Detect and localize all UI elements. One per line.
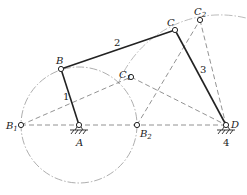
label-c: C	[167, 17, 175, 28]
label-link-2: 2	[114, 37, 120, 48]
label-d: D	[230, 119, 239, 130]
label-link-1: 1	[63, 91, 69, 102]
label-link-4: 4	[223, 137, 229, 148]
label-b2: B2	[139, 128, 152, 141]
link-2	[61, 30, 175, 69]
diagram-svg: A B B1 B2 C C1 C2 D 1 2 3 4	[0, 0, 247, 195]
label-link-3: 3	[200, 64, 206, 75]
joint-b	[58, 66, 63, 71]
label-c1: C1	[119, 69, 131, 82]
label-b1: B1	[5, 120, 18, 133]
rocker-arc	[118, 15, 246, 84]
link-3	[175, 30, 226, 125]
joint-d	[223, 122, 228, 127]
joint-b2	[134, 122, 139, 127]
linkage-diagram: A B B1 B2 C C1 C2 D 1 2 3 4	[0, 0, 247, 195]
joint-b1	[18, 122, 23, 127]
joint-c	[172, 27, 177, 32]
label-a: A	[75, 137, 83, 148]
label-b: B	[55, 55, 63, 66]
links	[61, 30, 226, 125]
joint-a	[76, 122, 81, 127]
